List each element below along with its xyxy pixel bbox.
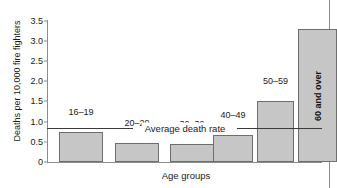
average-death-rate-line-left	[47, 128, 133, 130]
y-axis-tick-mark	[44, 162, 47, 163]
bar-category-label: 16–19	[68, 107, 93, 117]
x-axis-line	[47, 162, 322, 163]
y-axis-tick-label: 1.0	[30, 117, 43, 127]
y-axis-title: Deaths per 10,000 fire fighters	[12, 6, 22, 156]
average-death-rate-line-right	[237, 128, 322, 130]
bar	[115, 143, 159, 162]
y-axis-tick-label: 0.5	[30, 137, 43, 147]
bar-category-label: 50–59	[263, 76, 288, 86]
y-axis-tick-label: 3.5	[30, 16, 43, 26]
y-axis-tick-mark	[44, 101, 47, 102]
plot-area: 00.51.01.52.02.53.03.5 16–1920–2930–3940…	[47, 20, 322, 163]
y-axis-tick-label: 0	[38, 157, 43, 167]
y-axis-tick-label: 2.5	[30, 56, 43, 66]
y-axis-tick-mark	[44, 121, 47, 122]
y-axis-line	[47, 20, 48, 163]
y-axis-tick-label: 1.5	[30, 96, 43, 106]
y-axis-tick-mark	[44, 60, 47, 61]
y-axis-tick-mark	[44, 81, 47, 82]
y-axis-tick-label: 2.0	[30, 76, 43, 86]
y-axis-tick-mark	[44, 20, 47, 21]
x-axis-title: Age groups	[48, 170, 324, 181]
bar	[170, 144, 214, 162]
bar-category-label: 40–49	[220, 110, 245, 120]
average-death-rate-label: Average death rate	[142, 122, 229, 133]
y-axis-tick-mark	[44, 40, 47, 41]
y-axis-tick-label: 3.0	[30, 36, 43, 46]
bar	[213, 135, 253, 162]
bar	[257, 101, 294, 162]
y-axis-tick-mark	[44, 141, 47, 142]
bar	[59, 132, 103, 162]
bar-category-label: 60 and over	[313, 71, 323, 121]
bar-chart-figure: Deaths per 10,000 fire fighters Age grou…	[0, 0, 337, 188]
